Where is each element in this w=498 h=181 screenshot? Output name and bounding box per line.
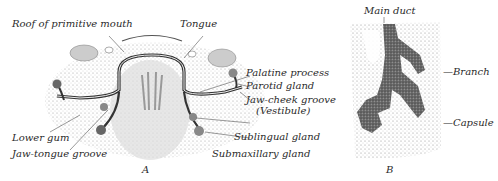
- label-main-duct: Main duct: [364, 5, 415, 16]
- label-branch: —Branch: [443, 66, 490, 77]
- figure-a-letter: A: [142, 164, 149, 175]
- label-jaw-cheek-groove: Jaw-cheek groove: [246, 94, 336, 105]
- label-palatine-process: Palatine process: [246, 67, 329, 78]
- label-sublingual-gland: Sublingual gland: [234, 131, 320, 142]
- figure-b-letter: B: [386, 164, 393, 175]
- label-lower-gum: Lower gum: [12, 132, 69, 143]
- label-tongue: Tongue: [180, 18, 217, 29]
- label-vestibule: (Vestibule): [256, 105, 310, 116]
- label-submaxillary-gland: Submaxillary gland: [212, 148, 310, 159]
- label-parotid-gland: Parotid gland: [246, 80, 314, 91]
- label-roof-of-primitive-mouth: Roof of primitive mouth: [12, 18, 133, 29]
- label-jaw-tongue-groove: Jaw-tongue groove: [12, 148, 107, 159]
- figure-b-drawing: [350, 0, 441, 158]
- figure-a-drawing: [45, 36, 265, 161]
- label-capsule: —Capsule: [443, 117, 494, 128]
